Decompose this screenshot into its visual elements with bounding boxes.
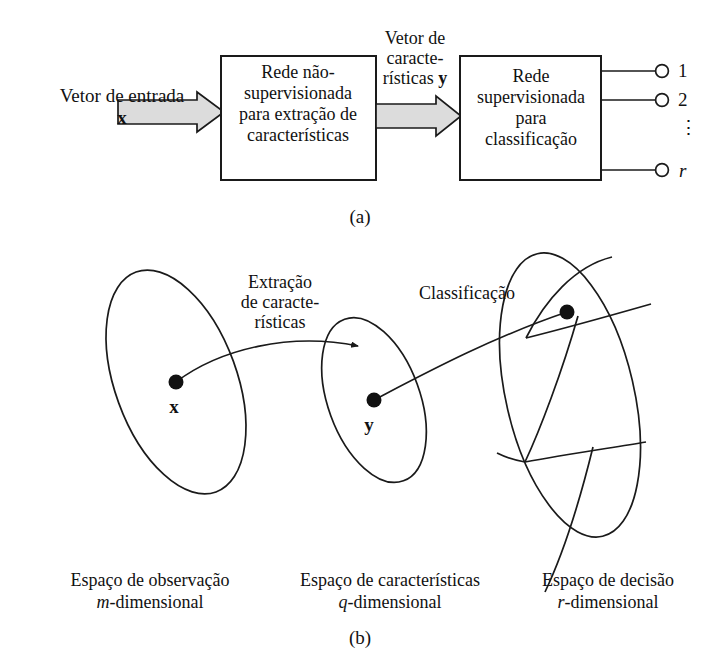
decision-space-dimension-var: r <box>558 592 565 612</box>
feature-space-caption: Espaço de características q-dimensional <box>272 570 508 613</box>
feature-label-line-2: caracte- <box>362 48 468 68</box>
decision-space-caption-line-1: Espaço de decisão <box>510 570 706 592</box>
extraction-mapping-arrow <box>176 341 358 382</box>
decision-space-caption: Espaço de decisão r-dimensional <box>510 570 706 613</box>
feature-label-line-1: Vetor de <box>362 28 468 48</box>
box2-line-1: Rede <box>462 66 600 87</box>
unsupervised-network-box-text: Rede não- supervisionada para extração d… <box>222 62 374 146</box>
observation-space-caption-line-2: m-dimensional <box>30 592 270 614</box>
box2-line-3: para <box>462 108 600 129</box>
input-vector-label: Vetor de entrada x <box>36 85 208 129</box>
feature-space-caption-line-1: Espaço de características <box>272 570 508 592</box>
observation-space-caption: Espaço de observação m-dimensional <box>30 570 270 613</box>
point-decision <box>560 305 575 320</box>
extract-label-line-1: Extração <box>216 272 344 292</box>
figure-container: Vetor de entrada x Rede não- supervision… <box>0 0 720 661</box>
output-pins <box>601 65 668 177</box>
extract-label-line-3: rísticas <box>216 312 344 332</box>
output-label-2: 2 <box>678 89 688 111</box>
feature-vector-symbol: y <box>438 68 447 88</box>
observation-space-dimension-text: -dimensional <box>110 592 204 612</box>
input-vector-symbol: x <box>36 107 208 128</box>
input-vector-label-text: Vetor de entrada <box>60 85 185 106</box>
point-y <box>367 393 382 408</box>
point-y-symbol: y <box>352 414 386 435</box>
box2-line-4: classificação <box>462 129 600 150</box>
supervised-network-box-text: Rede supervisionada para classificação <box>462 66 600 150</box>
feature-label-line-3: rísticas y <box>362 68 468 88</box>
feature-space-dimension-var: q <box>339 592 348 612</box>
feature-extraction-label: Extração de caracte- rísticas <box>216 272 344 332</box>
feature-block-arrow <box>376 96 461 136</box>
feature-space-dimension-text: -dimensional <box>348 592 442 612</box>
extract-label-line-2: de caracte- <box>216 292 344 312</box>
box1-line-3: para extração de <box>222 104 374 125</box>
feature-vector-label: Vetor de caracte- rísticas y <box>362 28 468 88</box>
point-x <box>169 375 184 390</box>
decision-space-caption-line-2: r-dimensional <box>510 592 706 614</box>
classification-label: Classificação <box>392 283 542 303</box>
feature-space-caption-line-2: q-dimensional <box>272 592 508 614</box>
box1-line-1: Rede não- <box>222 62 374 83</box>
observation-space-dimension-var: m <box>97 592 110 612</box>
feature-label-line-3-text: rísticas <box>383 68 439 88</box>
panel-a-caption: (a) <box>330 206 390 227</box>
box1-line-2: supervisionada <box>222 83 374 104</box>
vertical-ellipsis-icon: ⋮ <box>679 116 698 139</box>
box1-line-4: características <box>222 125 374 146</box>
output-label-1: 1 <box>678 60 688 82</box>
point-x-symbol: x <box>157 396 191 417</box>
output-label-r: r <box>679 160 686 182</box>
decision-region-boundaries <box>497 257 651 592</box>
observation-space-caption-line-1: Espaço de observação <box>30 570 270 592</box>
panel-b-caption: (b) <box>330 627 390 648</box>
box2-line-2: supervisionada <box>462 87 600 108</box>
decision-space-dimension-text: -dimensional <box>565 592 659 612</box>
